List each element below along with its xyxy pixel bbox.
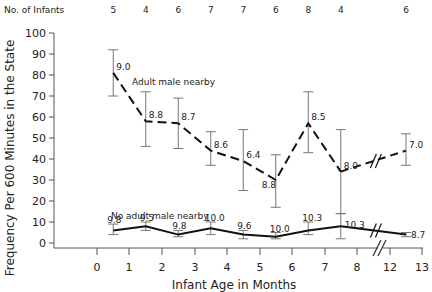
y-tick-label: 90 [32, 48, 46, 61]
x-tick-label: 13 [415, 261, 429, 274]
series-line-no-adult-male-nearby [113, 226, 341, 237]
y-tick-label: 20 [32, 195, 46, 208]
x-tick-label: 0 [94, 261, 101, 274]
data-point-label: 10.0 [270, 224, 290, 234]
series-line-adult-male-nearby [113, 73, 341, 180]
y-tick-label: 60 [32, 111, 46, 124]
data-point-label: 10.3 [302, 213, 322, 223]
x-tick-label: 2 [159, 261, 166, 274]
x-tick-label: 7 [322, 261, 329, 274]
x-tick-label: 4 [224, 261, 231, 274]
series-label-no-adult-male-nearby: No adult male nearby [111, 211, 209, 221]
y-tick-label: 30 [32, 174, 46, 187]
y-tick-label: 10 [32, 216, 46, 229]
y-tick-label: 40 [32, 153, 46, 166]
no-of-infants-label: No. of Infants [4, 5, 65, 15]
n-infants-value: 4 [143, 5, 149, 15]
x-tick-label: 3 [192, 261, 199, 274]
data-point-label: 8.0 [344, 161, 359, 171]
data-point-label: 9.0 [116, 62, 131, 72]
data-point-label: 8.6 [214, 140, 229, 150]
x-tick-label: 5 [257, 261, 264, 274]
y-tick-label: 0 [39, 237, 46, 250]
x-tick-label: 8 [354, 261, 361, 274]
data-point-label: 8.8 [149, 110, 164, 120]
n-infants-value: 6 [273, 5, 279, 15]
x-axis-label: Infant Age in Months [172, 278, 297, 292]
x-tick-label: 1 [126, 261, 133, 274]
data-point-label: 8.7 [411, 230, 425, 240]
data-point-label: 8.8 [262, 180, 277, 190]
y-tick-label: 100 [25, 27, 46, 40]
y-axis-label: Frequency Per 600 Minutes in the State [3, 40, 17, 277]
data-point-label: 6.4 [246, 150, 261, 160]
data-point-label: 8.7 [181, 112, 195, 122]
n-infants-value: 4 [338, 5, 344, 15]
chart: 01020304050607080901000123456781213Infan… [0, 0, 432, 292]
n-infants-value: 7 [208, 5, 214, 15]
y-tick-label: 50 [32, 132, 46, 145]
data-point-label: 7.0 [409, 140, 424, 150]
n-infants-value: 6 [175, 5, 181, 15]
line-break-mark [375, 154, 381, 168]
y-tick-label: 70 [32, 90, 46, 103]
n-infants-value: 6 [403, 5, 409, 15]
n-infants-value: 5 [110, 5, 116, 15]
data-point-label: 10.3 [345, 220, 365, 230]
y-tick-label: 80 [32, 69, 46, 82]
n-infants-value: 8 [305, 5, 311, 15]
data-point-label: 9.8 [172, 221, 187, 231]
data-point-label: 8.5 [311, 112, 325, 122]
x-tick-label: 12 [383, 261, 397, 274]
n-infants-value: 7 [240, 5, 246, 15]
x-tick-label: 6 [289, 261, 296, 274]
series-label-adult-male-nearby: Adult male nearby [132, 77, 216, 87]
data-point-label: 9.6 [237, 221, 252, 231]
